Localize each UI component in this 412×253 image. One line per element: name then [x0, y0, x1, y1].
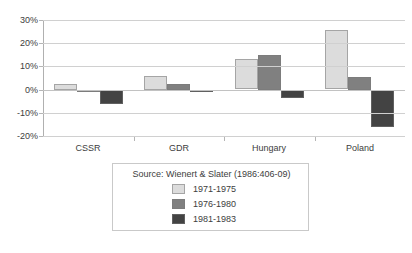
x-axis-tick — [315, 137, 316, 141]
bar-cssr-1981-1983 — [100, 90, 123, 104]
bar-hungary-1976-1980 — [258, 55, 281, 90]
gridline — [43, 113, 405, 114]
bar-poland-1981-1983 — [371, 90, 394, 127]
legend-swatch-icon — [172, 214, 185, 224]
legend-item-label: 1976-1980 — [193, 199, 236, 209]
bar-hungary-1981-1983 — [281, 90, 304, 98]
legend-item-1971-1975: 1971-1975 — [172, 184, 236, 194]
gridline — [43, 136, 405, 137]
x-axis-label-gdr: GDR — [169, 143, 189, 153]
legend-item-label: 1981-1983 — [193, 214, 236, 224]
bar-hungary-1971-1975 — [235, 59, 258, 89]
x-axis-label-poland: Poland — [346, 143, 374, 153]
gridline — [43, 43, 405, 44]
bar-poland-1976-1980 — [348, 77, 371, 90]
y-axis-tick-label: 0% — [25, 85, 38, 95]
x-axis-tick — [224, 137, 225, 141]
legend-item-label: 1971-1975 — [193, 184, 236, 194]
legend-item-1976-1980: 1976-1980 — [172, 199, 236, 209]
x-axis-label-cssr: CSSR — [75, 143, 100, 153]
x-axis-tick — [134, 137, 135, 141]
legend-item-1981-1983: 1981-1983 — [172, 214, 236, 224]
legend-source-text: Source: Wienert & Slater (1986:406-09) — [113, 169, 310, 179]
y-axis-line — [43, 20, 44, 137]
bar-poland-1971-1975 — [325, 30, 348, 89]
y-axis-tick-label: -10% — [17, 108, 38, 118]
legend-swatch-icon — [172, 184, 185, 194]
y-axis-tick-label: -20% — [17, 131, 38, 141]
legend-swatch-icon — [172, 199, 185, 209]
gridline — [43, 90, 405, 91]
y-axis-tick-label: 20% — [20, 38, 38, 48]
y-axis-tick-label: 30% — [20, 15, 38, 25]
bar-gdr-1971-1975 — [144, 76, 167, 90]
legend: Source: Wienert & Slater (1986:406-09) 1… — [112, 163, 309, 231]
gridline — [43, 66, 405, 67]
gridline — [43, 20, 405, 21]
x-axis-label-hungary: Hungary — [252, 143, 286, 153]
bar-chart-figure: 30%20%10%0%-10%-20% CSSRGDRHungaryPoland… — [0, 0, 412, 253]
y-axis-tick-label: 10% — [20, 61, 38, 71]
